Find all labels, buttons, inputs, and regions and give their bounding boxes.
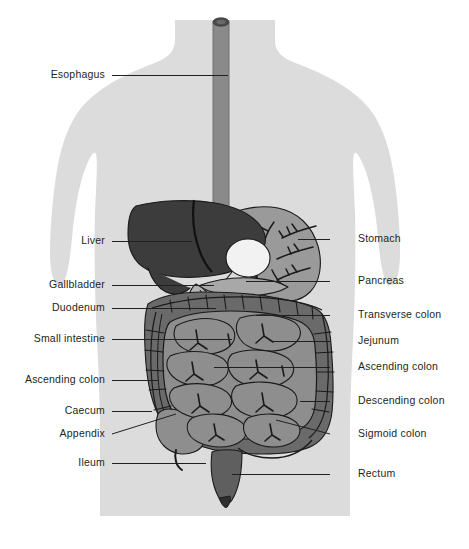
label-text-stomach: Stomach <box>358 232 401 244</box>
digestive-system-diagram: EsophagusLiverGallbladderDuodenumSmall i… <box>0 0 469 549</box>
label-text-esophagus: Esophagus <box>51 68 105 80</box>
label-text-duodenum: Duodenum <box>52 301 105 313</box>
label-text-ascending-colon: Ascending colon <box>25 373 105 385</box>
label-text-descending-colon: Descending colon <box>358 394 445 406</box>
label-text-ileum: Ileum <box>78 456 105 468</box>
label-text-appendix: Appendix <box>60 427 106 439</box>
label-text-ascending-colon-r: Ascending colon <box>358 360 438 372</box>
label-text-small-intestine: Small intestine <box>34 332 105 344</box>
label-text-jejunum: Jejunum <box>358 334 399 346</box>
label-text-pancreas: Pancreas <box>358 274 404 286</box>
esophagus-organ <box>213 18 229 214</box>
label-text-transverse-colon: Transverse colon <box>358 308 441 320</box>
label-text-rectum: Rectum <box>358 467 395 479</box>
label-text-caecum: Caecum <box>65 404 105 416</box>
label-text-sigmoid-colon: Sigmoid colon <box>358 427 427 439</box>
label-text-liver: Liver <box>81 234 105 246</box>
diagram-canvas: EsophagusLiverGallbladderDuodenumSmall i… <box>0 0 469 549</box>
label-text-gallbladder: Gallbladder <box>49 278 105 290</box>
